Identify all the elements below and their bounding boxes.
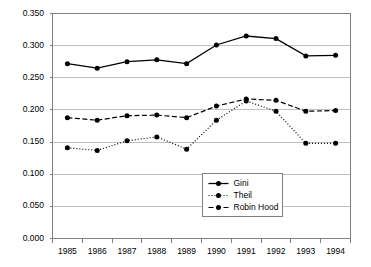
data-point	[303, 109, 308, 114]
data-point	[154, 113, 159, 118]
data-point	[95, 66, 100, 71]
y-tick-label: 0.350	[4, 8, 44, 18]
data-point	[184, 115, 189, 120]
y-tick-label: 0.300	[4, 40, 44, 50]
line-chart: 0.3500.3000.2500.2000.1500.1000.0500.000…	[0, 0, 371, 267]
y-tick-label: 0.200	[4, 104, 44, 114]
data-point	[184, 61, 189, 66]
data-point	[125, 59, 130, 64]
data-point	[125, 138, 130, 143]
data-point	[303, 53, 308, 58]
y-tick-label: 0.100	[4, 168, 44, 178]
data-point	[95, 148, 100, 153]
y-tick-label: 0.250	[4, 72, 44, 82]
data-point	[303, 141, 308, 146]
legend-item-theil: Theil	[234, 190, 252, 200]
data-point	[244, 34, 249, 39]
data-point	[333, 141, 338, 146]
x-tick-marks	[53, 239, 351, 243]
data-point	[65, 145, 70, 150]
data-point	[95, 118, 100, 123]
legend-item-robin-hood: Robin Hood	[234, 202, 279, 212]
data-point	[214, 104, 219, 109]
y-tick-label: 0.000	[4, 233, 44, 243]
data-point	[184, 147, 189, 152]
data-point	[333, 108, 338, 113]
chart-canvas	[0, 0, 371, 267]
x-tick-label: 1994	[319, 246, 353, 256]
data-point	[65, 61, 70, 66]
data-point	[244, 97, 249, 102]
data-point	[274, 109, 279, 114]
data-point	[214, 118, 219, 123]
data-point	[154, 134, 159, 139]
axes-group	[53, 14, 351, 239]
data-point	[65, 115, 70, 120]
data-point	[214, 43, 219, 48]
data-point	[274, 98, 279, 103]
series-line-theil	[67, 101, 335, 151]
series-line-gini	[67, 36, 335, 68]
legend-item-gini: Gini	[234, 178, 249, 188]
data-point	[154, 57, 159, 62]
y-tick-label: 0.150	[4, 136, 44, 146]
gridlines-group	[53, 14, 351, 239]
data-point	[125, 113, 130, 118]
series-lines-group	[67, 36, 335, 150]
y-tick-label: 0.050	[4, 200, 44, 210]
data-point	[274, 36, 279, 41]
data-point	[333, 53, 338, 58]
